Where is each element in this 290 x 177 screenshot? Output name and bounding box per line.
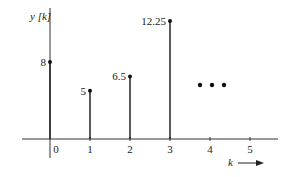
x-tick-label: 1 — [87, 143, 93, 155]
value-label: 6.5 — [112, 70, 126, 82]
continuation-dot — [198, 83, 202, 87]
stem-marker — [128, 74, 132, 78]
y-axis-label: y [k] — [29, 10, 51, 22]
x-tick-label: 5 — [247, 143, 253, 155]
arrow-right-icon — [256, 160, 264, 166]
stem-marker — [168, 19, 172, 23]
x-tick-label: 3 — [167, 143, 173, 155]
continuation-dot — [210, 83, 214, 87]
x-tick-label: 4 — [207, 143, 213, 155]
value-label: 5 — [81, 85, 87, 97]
x-tick-label: 0 — [53, 143, 59, 155]
stem-plot: y [k]012345856.512.25k — [0, 0, 290, 177]
x-tick-label: 2 — [127, 143, 133, 155]
continuation-dot — [222, 83, 226, 87]
stem-marker — [88, 89, 92, 93]
value-label: 12.25 — [141, 15, 166, 27]
value-label: 8 — [41, 56, 47, 68]
stem-marker — [48, 60, 52, 64]
x-axis-label: k — [228, 156, 234, 168]
